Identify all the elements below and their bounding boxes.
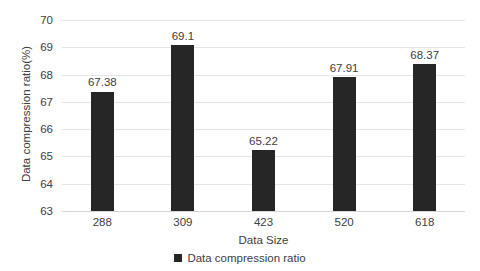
legend-item-label: Data compression ratio [187,252,305,264]
gridline [62,102,465,103]
y-axis-title: Data compression ratio(%) [20,12,32,217]
legend-swatch-icon [174,254,182,262]
gridline [62,20,465,21]
gridline [62,75,465,76]
bar-value-label: 67.91 [330,62,359,74]
legend-item[interactable]: Data compression ratio [174,252,305,264]
bar[interactable] [91,92,114,212]
gridline [62,47,465,48]
y-axis-tick-label: 69 [40,41,53,53]
bar-value-label: 68.37 [410,49,439,61]
y-axis-tick-label: 68 [40,69,53,81]
bar[interactable] [413,64,436,211]
y-axis-tick-label: 67 [40,96,53,108]
y-axis-tick-label: 65 [40,150,53,162]
x-axis-tick-label: 520 [335,216,354,228]
bar[interactable] [333,77,356,211]
bar[interactable] [171,45,194,211]
x-axis-tick-label: 309 [173,216,192,228]
bar[interactable] [252,150,275,211]
y-axis-tick-label: 70 [40,14,53,26]
bar-value-label: 67.38 [88,76,117,88]
bar-value-label: 65.22 [249,135,278,147]
chart-legend: Data compression ratio [0,252,480,264]
x-axis-tick-label: 423 [254,216,273,228]
gridline [62,211,465,212]
gridline [62,129,465,130]
y-axis-tick-label: 63 [40,205,53,217]
x-axis-tick-label: 618 [415,216,434,228]
plot-area: 706968676665646367.3828869.130965.224236… [62,20,465,211]
y-axis-tick-label: 66 [40,123,53,135]
x-axis-tick-label: 288 [93,216,112,228]
x-axis-title: Data Size [62,234,465,246]
y-axis-tick-label: 64 [40,178,53,190]
bar-value-label: 69.1 [172,30,194,42]
bar-chart: Data compression ratio(%) 70696867666564… [0,0,480,271]
